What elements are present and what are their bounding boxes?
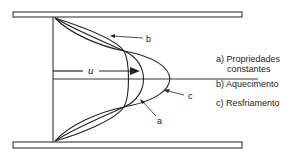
- curve-label-a: a: [157, 116, 162, 126]
- bottom-plate: [13, 142, 242, 148]
- leader-a: [142, 101, 156, 116]
- legend-b: b) Aquecimento: [216, 79, 280, 89]
- curve-label-b: b: [146, 34, 151, 44]
- curve-label-c: c: [188, 91, 193, 101]
- leader-b-arrowhead: [110, 34, 115, 38]
- velocity-label: u: [88, 64, 94, 76]
- legend-a-line1: a) Propriedades: [216, 54, 280, 64]
- legend: a) Propriedades constantes b) Aqueciment…: [216, 54, 280, 108]
- profile-curve-a: [55, 18, 144, 141]
- legend-c: c) Resfriamento: [216, 98, 280, 108]
- leader-c: [168, 91, 184, 95]
- leader-b: [113, 36, 143, 38]
- legend-a-line2: constantes: [216, 64, 280, 74]
- top-plate: [13, 12, 242, 17]
- velocity-arrow-head: [130, 67, 140, 75]
